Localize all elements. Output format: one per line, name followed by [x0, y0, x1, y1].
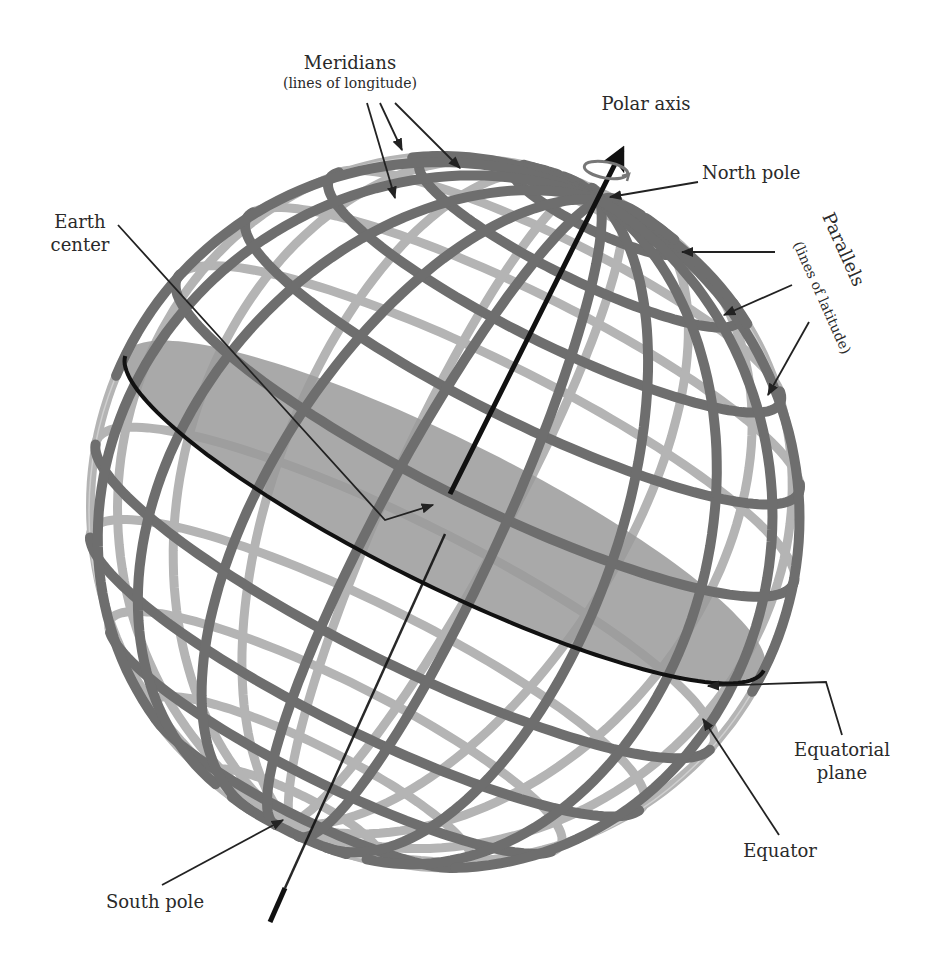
earth-globe-diagram: Meridians (lines of longitude) Polar axi… — [0, 0, 938, 956]
polar-axis-label: Polar axis — [602, 93, 691, 114]
south-pole-label: South pole — [106, 891, 204, 912]
equator-label: Equator — [743, 840, 817, 861]
parallel-leader-3 — [768, 322, 809, 395]
earth-center-label-line2: center — [51, 234, 110, 255]
rotation-arrow-icon — [583, 158, 629, 181]
north-pole-leader — [610, 182, 698, 197]
polar-axis-south-stub — [270, 888, 285, 922]
equatorial-plane-label-line1: Equatorial — [794, 739, 890, 760]
equator-leader — [703, 719, 779, 835]
parallels-title: Parallels — [818, 209, 869, 289]
north-pole-label: North pole — [702, 162, 801, 183]
earth-center-label-line1: Earth — [54, 211, 106, 232]
equatorial-plane-label-line2: plane — [817, 762, 867, 783]
meridians-title: Meridians — [304, 52, 396, 73]
meridian-leader-2 — [380, 103, 402, 150]
south-pole-leader — [162, 820, 283, 885]
meridians-subtitle: (lines of longitude) — [283, 75, 417, 91]
